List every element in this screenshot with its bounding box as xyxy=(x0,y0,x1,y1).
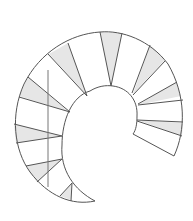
shaded-winders xyxy=(14,32,183,200)
inner-arc xyxy=(62,86,137,201)
staircase-plan xyxy=(0,0,193,221)
